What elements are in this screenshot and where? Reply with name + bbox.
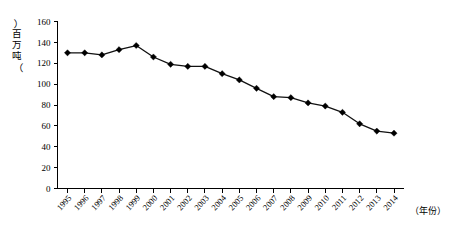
x-axis-tick-label: 1996 bbox=[72, 193, 91, 212]
x-axis-tick-label: 1999 bbox=[123, 193, 142, 212]
data-point-marker bbox=[64, 50, 70, 56]
y-axis-tick-label: 120 bbox=[37, 58, 51, 68]
line-chart-plot: 020406080100120140160 199519961997199819… bbox=[0, 0, 465, 229]
data-point-marker bbox=[305, 100, 311, 106]
y-axis-tick-label: 160 bbox=[37, 17, 51, 27]
y-axis-tick-label: 60 bbox=[42, 121, 52, 131]
y-axis-tick-group: 020406080100120140160 bbox=[37, 17, 58, 194]
data-point-marker bbox=[271, 94, 277, 100]
data-point-marker bbox=[236, 77, 242, 83]
x-axis-tick-label: 2006 bbox=[244, 193, 263, 212]
data-point-marker bbox=[202, 63, 208, 69]
y-axis-tick-label: 40 bbox=[42, 142, 52, 152]
data-point-marker bbox=[253, 85, 259, 91]
x-axis-tick-label: 2011 bbox=[330, 193, 349, 212]
x-axis-tick-label: 2003 bbox=[192, 193, 211, 212]
x-axis-tick-group bbox=[68, 189, 395, 193]
x-axis-tick-label: 2002 bbox=[175, 193, 194, 212]
data-point-marker bbox=[99, 52, 105, 58]
data-point-marker bbox=[322, 103, 328, 109]
x-axis-tick-label: 1997 bbox=[89, 193, 108, 212]
data-point-marker bbox=[374, 128, 380, 134]
x-axis-tick-label: 2000 bbox=[140, 193, 159, 212]
data-point-marker bbox=[219, 71, 225, 77]
data-point-marker bbox=[82, 50, 88, 56]
data-point-marker bbox=[288, 95, 294, 101]
data-point-marker bbox=[168, 61, 174, 67]
data-series-line bbox=[68, 46, 395, 134]
chart-container: ︵ 百 万 吨 ︶ 020406080100120140160 19951996… bbox=[0, 0, 465, 229]
y-axis-tick-label: 140 bbox=[37, 38, 51, 48]
axis-lines bbox=[58, 22, 405, 189]
x-axis-title: （年份） bbox=[410, 205, 446, 216]
x-axis-tick-label: 2008 bbox=[278, 193, 297, 212]
data-point-marker bbox=[391, 130, 397, 136]
x-axis-tick-label: 2004 bbox=[209, 192, 228, 212]
x-axis-tick-label: 2001 bbox=[158, 193, 177, 212]
data-point-markers bbox=[64, 42, 397, 136]
y-axis-tick-label: 20 bbox=[42, 163, 52, 173]
x-axis-tick-label: 2013 bbox=[364, 193, 383, 212]
y-axis-tick-label: 0 bbox=[46, 184, 51, 194]
x-axis-tick-label: 2005 bbox=[226, 193, 245, 212]
x-axis-tick-label: 1995 bbox=[55, 193, 74, 212]
x-axis-tick-label: 2012 bbox=[347, 193, 366, 212]
x-axis-tick-label: 1998 bbox=[106, 193, 125, 212]
x-axis-tick-label: 2007 bbox=[261, 193, 280, 212]
x-axis-tick-label: 2014 bbox=[381, 192, 400, 212]
x-axis-labels: 1995199619971998199920002001200220032004… bbox=[55, 192, 401, 212]
x-axis-tick-label: 2009 bbox=[295, 193, 314, 212]
y-axis-tick-label: 100 bbox=[37, 79, 51, 89]
data-point-marker bbox=[116, 47, 122, 53]
y-axis-tick-label: 80 bbox=[42, 100, 52, 110]
x-axis-tick-label: 2010 bbox=[312, 193, 331, 212]
data-point-marker bbox=[185, 63, 191, 69]
